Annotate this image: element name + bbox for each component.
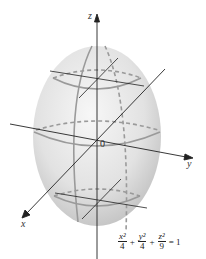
y-term: y² 4: [138, 232, 147, 251]
z-axis-label: z: [87, 10, 92, 21]
z-axis-arrow: [95, 14, 100, 22]
x-term: x² 4: [118, 232, 127, 251]
equals-one: = 1: [168, 237, 182, 247]
ellipsoid-figure: z y x 0 x² 4 + y² 4 + z² 9 = 1: [0, 0, 206, 259]
x-axis-label: x: [20, 218, 26, 229]
y-axis-label: y: [186, 158, 192, 169]
plus-sign: +: [148, 237, 155, 247]
z-term: z² 9: [158, 232, 166, 251]
ellipsoid-plot: z y x 0: [0, 0, 206, 259]
origin-label: 0: [100, 138, 105, 149]
ellipsoid-equation: x² 4 + y² 4 + z² 9 = 1: [118, 232, 182, 251]
plus-sign: +: [129, 237, 136, 247]
